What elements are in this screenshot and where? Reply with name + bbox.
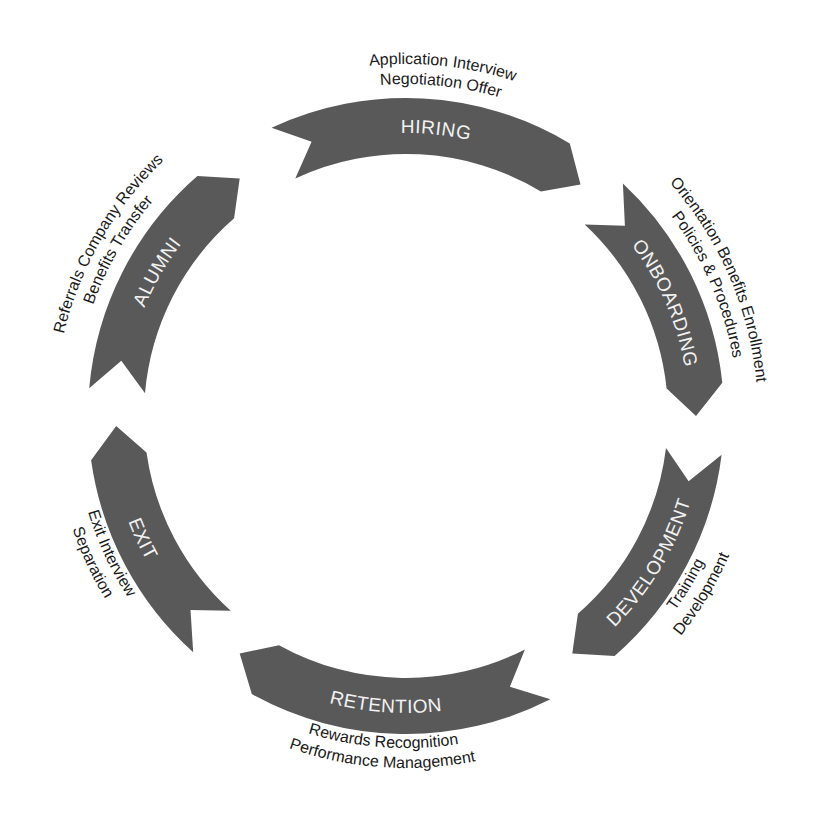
cycle-segments — [89, 98, 722, 734]
cycle-labels: HIRINGApplication InterviewNegotiation O… — [50, 50, 770, 771]
segment-development — [572, 448, 721, 656]
segment-retention — [240, 645, 551, 734]
lifecycle-diagram: HIRINGApplication InterviewNegotiation O… — [0, 0, 816, 832]
segment-hiring — [272, 98, 581, 191]
